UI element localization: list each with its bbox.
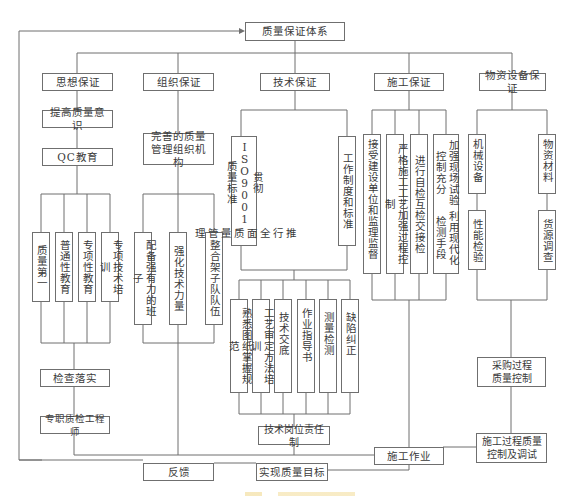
node-quality-management-organization-text: 完善的质量管理组织机构: [148, 130, 210, 169]
node-supply-survey: 货源调查: [538, 210, 556, 270]
figure-caption: [245, 492, 355, 496]
node-strict-process-control: 严格施工工艺加强过程控制: [386, 134, 404, 274]
node-procurement-line2: 质量控制: [492, 372, 532, 385]
node-process-control-line2: 控制及调试: [487, 448, 537, 461]
node-iso9001-tqm: 贯彻ISO9001质量标准 推行全面质量管理: [231, 136, 257, 246]
node-quality-inspection-engineer: 专职质检工程师: [40, 416, 110, 434]
node-feedback: 反馈: [143, 463, 214, 481]
node-iso9001-line1: 贯彻ISO9001质量标准: [225, 141, 264, 225]
node-defect-correction: 缺陷纠正: [341, 299, 359, 393]
node-specialized-education: 专项性教育: [78, 232, 96, 302]
branch-materials-equipment-assurance: 物资设备保证: [479, 73, 546, 91]
node-quality-first: 质量第一: [32, 232, 50, 302]
node-self-mutual-handover-inspection: 进行自检互检交接检: [410, 134, 428, 274]
node-technical-briefing: 技术交底: [274, 299, 292, 393]
node-process-approval-training: 工艺审定方法培训: [252, 299, 270, 393]
branch-technical-assurance: 技术保证: [260, 73, 330, 91]
node-specialized-tech-training: 专项技术培训: [101, 232, 119, 302]
node-performance-testing: 性能检验: [468, 210, 486, 270]
branch-thought-assurance: 思想保证: [42, 73, 113, 91]
node-technical-post-responsibility: 技术岗位责任制: [258, 426, 330, 445]
branch-organization-assurance: 组织保证: [143, 73, 214, 91]
node-procurement-line1: 采购过程: [492, 359, 532, 372]
node-work-system-standards: 工作制度和标准: [338, 136, 356, 246]
node-quality-management-organization: 完善的质量管理组织机构: [143, 133, 214, 165]
node-iso9001-line2: 推行全面质量管理: [192, 225, 296, 241]
node-procurement-quality-control: 采购过程 质量控制: [477, 357, 546, 387]
node-process-control-line1: 施工过程质量: [482, 435, 542, 448]
node-strengthen-tech-force: 强化技术力量: [169, 232, 187, 325]
node-accept-supervision: 接受建设单位和监理监督: [363, 134, 381, 274]
node-work-instructions: 作业指导书: [297, 299, 315, 393]
node-onsite-testing-modern-detection: 加强现场试验控制充分 利用现代化检测手段: [433, 134, 459, 274]
node-inspection-implementation: 检查落实: [40, 369, 110, 387]
node-strong-leadership-team: 配备强有力的班子: [134, 232, 152, 325]
node-qc-education: QC教育: [42, 148, 113, 166]
node-integrate-team: 整合架子队队伍: [205, 232, 223, 325]
node-construction-work: 施工作业: [374, 447, 444, 465]
branch-construction-assurance: 施工保证: [374, 73, 444, 91]
node-achieve-quality-goal: 实现质量目标: [256, 463, 328, 481]
node-materials: 物资材料: [538, 134, 556, 194]
node-onsite-testing-line1: 加强现场试验控制充分: [433, 139, 459, 207]
node-mechanical-equipment: 机械设备: [468, 134, 486, 194]
node-general-education: 普通性教育: [55, 232, 73, 302]
root-node-quality-assurance-system: 质量保证体系: [245, 22, 345, 41]
node-onsite-testing-line2: 利用现代化检测手段: [433, 207, 459, 269]
node-process-quality-control-commissioning: 施工过程质量 控制及调试: [476, 433, 547, 463]
node-drawings-specs: 熟悉图纸掌握规范: [230, 299, 248, 393]
node-raise-quality-awareness: 提高质量意识: [42, 110, 113, 128]
node-measurement-testing: 测量检测: [319, 299, 337, 393]
